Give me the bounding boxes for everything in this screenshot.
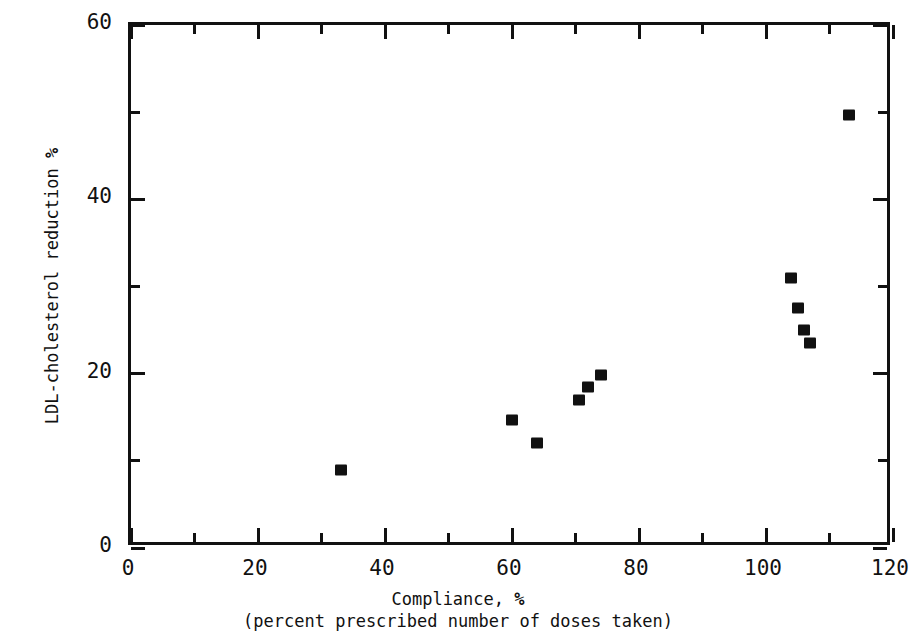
- axis-tick-bottom: [257, 528, 260, 542]
- axis-tick-bottom: [765, 528, 768, 542]
- data-point: [785, 272, 797, 283]
- data-point: [792, 303, 804, 314]
- axis-tick-top: [701, 25, 704, 34]
- axis-tick-left: [131, 111, 140, 114]
- axis-tick-top: [130, 25, 133, 39]
- data-point: [531, 438, 543, 449]
- x-axis-title-main: Compliance, %: [0, 588, 916, 610]
- axis-tick-top: [193, 25, 196, 34]
- axis-tick-right: [878, 459, 887, 462]
- axis-tick-right: [878, 111, 887, 114]
- axis-tick-right: [873, 547, 887, 550]
- axis-tick-left: [131, 198, 145, 201]
- x-tick-label: 20: [242, 556, 267, 580]
- data-point: [335, 464, 347, 475]
- axis-tick-bottom: [320, 533, 323, 542]
- data-point: [573, 394, 585, 405]
- axis-tick-top: [892, 25, 895, 39]
- data-point: [798, 325, 810, 336]
- axis-tick-left: [131, 459, 140, 462]
- axis-tick-top: [765, 25, 768, 39]
- axis-tick-bottom: [384, 528, 387, 542]
- x-tick-label: 0: [122, 556, 135, 580]
- data-point: [506, 414, 518, 425]
- axis-tick-bottom: [130, 528, 133, 542]
- axis-tick-right: [873, 372, 887, 375]
- axis-tick-top: [447, 25, 450, 34]
- axis-tick-top: [828, 25, 831, 34]
- axis-tick-bottom: [828, 533, 831, 542]
- axis-tick-left: [131, 24, 145, 27]
- x-tick-label: 100: [744, 556, 782, 580]
- plot-area: [131, 25, 887, 542]
- data-point: [843, 109, 855, 120]
- x-tick-label: 60: [496, 556, 521, 580]
- x-tick-label: 40: [369, 556, 394, 580]
- x-tick-label: 120: [871, 556, 909, 580]
- axis-tick-bottom: [638, 528, 641, 542]
- axis-tick-bottom: [193, 533, 196, 542]
- axis-tick-right: [873, 24, 887, 27]
- data-point: [582, 381, 594, 392]
- x-axis-title: Compliance, % (percent prescribed number…: [0, 588, 916, 632]
- axis-tick-bottom: [892, 528, 895, 542]
- axis-tick-right: [878, 285, 887, 288]
- axis-tick-top: [257, 25, 260, 39]
- x-tick-label: 80: [623, 556, 648, 580]
- axis-tick-left: [131, 372, 145, 375]
- axis-tick-left: [131, 285, 140, 288]
- y-axis-title: LDL-cholesterol reduction %: [42, 6, 62, 566]
- data-point: [595, 370, 607, 381]
- axis-tick-bottom: [447, 533, 450, 542]
- axis-tick-top: [638, 25, 641, 39]
- axis-tick-top: [574, 25, 577, 34]
- axis-tick-bottom: [701, 533, 704, 542]
- scatter-plot-figure: 020406080100120 0204060 Compliance, % (p…: [0, 0, 916, 638]
- axis-tick-top: [384, 25, 387, 39]
- axis-tick-bottom: [511, 528, 514, 542]
- x-axis-title-sub: (percent prescribed number of doses take…: [0, 610, 916, 632]
- axis-tick-right: [873, 198, 887, 201]
- plot-frame: [128, 22, 890, 545]
- axis-tick-top: [511, 25, 514, 39]
- axis-tick-left: [131, 547, 145, 550]
- data-point: [804, 338, 816, 349]
- axis-tick-top: [320, 25, 323, 34]
- axis-tick-bottom: [574, 533, 577, 542]
